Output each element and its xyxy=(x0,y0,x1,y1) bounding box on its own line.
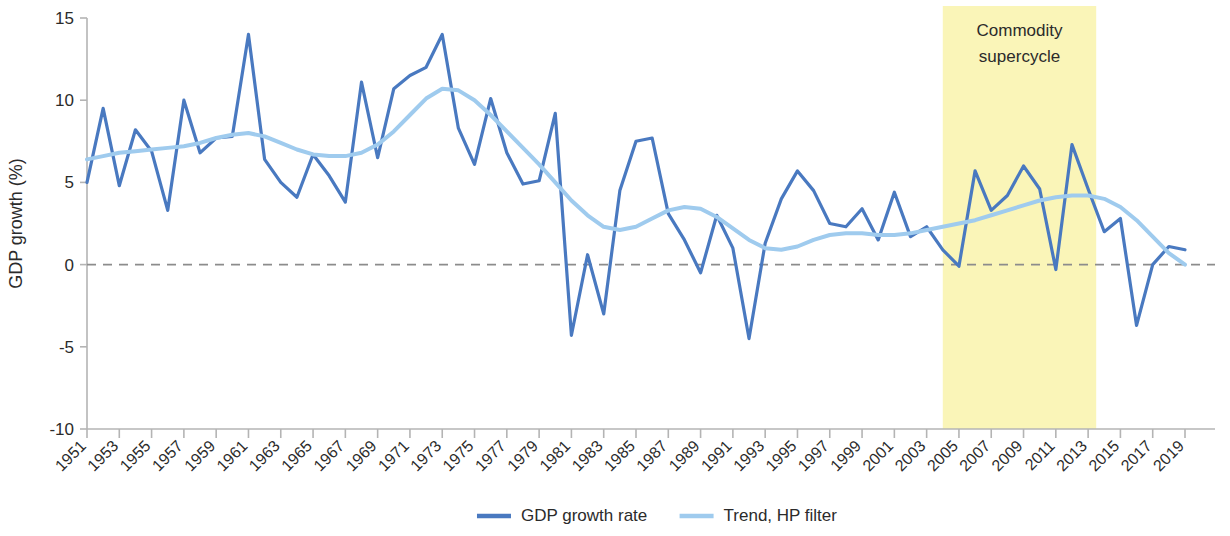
y-tick-label--5: -5 xyxy=(59,338,74,357)
x-tick-label-2009: 2009 xyxy=(988,437,1025,474)
x-tick-label-1995: 1995 xyxy=(762,437,799,474)
x-tick-label-1999: 1999 xyxy=(827,437,864,474)
y-tick-label-15: 15 xyxy=(55,9,74,28)
x-tick-label-1997: 1997 xyxy=(795,437,832,474)
x-tick-label-2003: 2003 xyxy=(892,437,929,474)
annotation-label-line2: supercycle xyxy=(979,47,1060,66)
x-tick-label-2017: 2017 xyxy=(1118,437,1155,474)
x-tick-label-1993: 1993 xyxy=(730,437,767,474)
x-tick-label-1977: 1977 xyxy=(472,437,509,474)
x-tick-label-2015: 2015 xyxy=(1085,437,1122,474)
x-tick-label-2005: 2005 xyxy=(924,437,961,474)
x-tick-label-1973: 1973 xyxy=(407,437,444,474)
x-tick-label-2011: 2011 xyxy=(1022,437,1058,473)
x-tick-label-1953: 1953 xyxy=(84,437,121,474)
x-tick-label-1955: 1955 xyxy=(117,437,154,474)
chart-container: Commoditysupercycle151050-5-10GDP growth… xyxy=(0,0,1230,536)
x-tick-label-1975: 1975 xyxy=(439,437,476,474)
y-axis-title: GDP growth (%) xyxy=(6,158,26,289)
x-tick-label-1991: 1991 xyxy=(698,437,735,474)
x-tick-label-2007: 2007 xyxy=(956,437,993,474)
x-tick-label-1959: 1959 xyxy=(181,437,218,474)
x-tick-label-2013: 2013 xyxy=(1053,437,1090,474)
x-tick-label-1961: 1961 xyxy=(213,437,250,474)
y-tick-label-5: 5 xyxy=(65,173,74,192)
x-tick-label-1979: 1979 xyxy=(504,437,541,474)
x-tick-label-1989: 1989 xyxy=(666,437,703,474)
x-tick-label-1957: 1957 xyxy=(149,437,186,474)
x-tick-label-1969: 1969 xyxy=(343,437,380,474)
x-tick-label-1967: 1967 xyxy=(310,437,347,474)
x-tick-label-1965: 1965 xyxy=(278,437,315,474)
annotation-label-line1: Commodity xyxy=(977,21,1063,40)
x-tick-label-1951: 1951 xyxy=(52,437,89,474)
gdp-growth-line-chart: Commoditysupercycle151050-5-10GDP growth… xyxy=(0,0,1230,536)
y-tick-label--10: -10 xyxy=(49,420,74,439)
x-tick-label-1983: 1983 xyxy=(569,437,606,474)
x-tick-label-2019: 2019 xyxy=(1150,437,1187,474)
x-tick-label-1963: 1963 xyxy=(246,437,283,474)
x-tick-label-1971: 1971 xyxy=(375,437,412,474)
x-tick-label-1985: 1985 xyxy=(601,437,638,474)
y-tick-label-0: 0 xyxy=(65,256,74,275)
x-tick-label-1981: 1981 xyxy=(536,437,573,474)
legend-label-1: Trend, HP filter xyxy=(724,506,838,525)
x-tick-label-1987: 1987 xyxy=(633,437,670,474)
legend-label-0: GDP growth rate xyxy=(521,506,647,525)
y-tick-label-10: 10 xyxy=(55,91,74,110)
x-tick-label-2001: 2001 xyxy=(859,437,896,474)
